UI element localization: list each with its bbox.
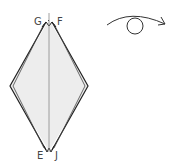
label-g: G (34, 17, 42, 27)
label-j: J (55, 151, 58, 161)
label-e: E (37, 151, 43, 161)
origami-diagram (0, 0, 171, 166)
label-f: F (57, 17, 63, 27)
turn-over-icon (107, 16, 165, 34)
diamond-model (10, 13, 88, 152)
